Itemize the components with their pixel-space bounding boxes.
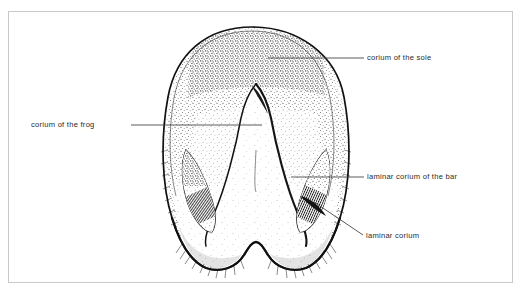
figure-root: corium of the sole corium of the frog la… [0,0,523,296]
hoof-drawing [160,25,360,278]
label-corium-of-the-frog: corium of the frog [31,120,95,129]
hoof-corium-illustration [0,0,523,296]
label-corium-of-the-sole: corium of the sole [367,53,431,62]
label-laminar-corium-of-the-bar: laminar corium of the bar [367,172,457,181]
label-laminar-corium: laminar corium [366,231,419,240]
